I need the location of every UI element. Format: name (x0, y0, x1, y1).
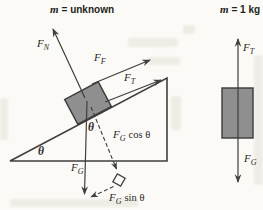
gravity-cos-label: FGcos θ (112, 128, 150, 143)
incline-angle-label: θ (38, 145, 44, 157)
right-angle-marker (113, 174, 125, 186)
free-body-diagram-svg: m= unknown FN FF FT FG FGcos θ (0, 0, 263, 210)
physics-figure: m= unknown FN FF FT FG FGcos θ (0, 0, 263, 210)
hanging-mass-panel: m= 1 kg FT FG (220, 3, 260, 182)
incline-panel: m= unknown FN FF FT FG FGcos θ (10, 3, 167, 206)
normal-force-arrow (53, 29, 85, 98)
decomposition-angle-label: θ (88, 121, 94, 133)
mass-variable: m (220, 3, 229, 15)
right-title: m= 1 kg (220, 3, 260, 15)
gravity-sin-label: FGsin θ (108, 191, 144, 206)
right-title-text: = 1 kg (231, 4, 260, 15)
left-title: m= unknown (50, 3, 114, 15)
gravity-force-label: FG (70, 161, 84, 176)
friction-force-label: FF (93, 51, 106, 66)
block-on-incline (65, 82, 112, 125)
right-tension-label: FT (242, 41, 255, 56)
mass-variable: m (50, 3, 59, 15)
tension-force-label: FT (123, 71, 136, 86)
left-title-text: = unknown (62, 4, 115, 15)
right-gravity-label: FG (243, 152, 257, 167)
normal-force-label: FN (36, 37, 50, 52)
